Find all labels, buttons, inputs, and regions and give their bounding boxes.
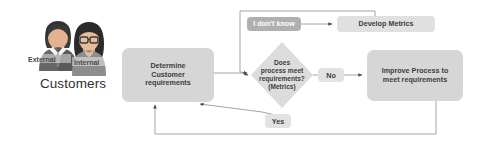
node-develop-metrics-label: Develop Metrics [355, 20, 416, 28]
node-decision-process-meets-requirements[interactable]: Does process meet requirements? (Metrics… [251, 42, 313, 108]
figure-tag-internal: Internal [74, 59, 99, 66]
node-i-dont-know-label: I don't know [250, 20, 298, 28]
node-decision-label: Does process meet requirements? (Metrics… [256, 59, 308, 90]
edge-determine-to-decision [214, 73, 248, 75]
node-improve-process[interactable]: Improve Process to meet requirements [367, 50, 463, 101]
male-businessperson-icon [39, 21, 77, 71]
node-determine-customer-requirements[interactable]: Determine Customer requirements [122, 48, 214, 102]
edge-label-no: No [318, 68, 344, 82]
customers-title: Customers [24, 76, 122, 91]
node-i-dont-know[interactable]: I don't know [247, 17, 301, 31]
node-develop-metrics[interactable]: Develop Metrics [337, 16, 435, 32]
customers-figures-icon [24, 14, 122, 76]
flowchart-diagram: External Internal Customers Determine Cu… [0, 0, 486, 146]
edge-label-yes: Yes [265, 114, 291, 128]
customers-group: External Internal Customers [24, 14, 122, 102]
figure-tag-external: External [28, 56, 56, 63]
node-improve-process-label: Improve Process to meet requirements [379, 67, 452, 84]
female-businessperson-icon [72, 22, 106, 76]
node-determine-label: Determine Customer requirements [142, 62, 194, 87]
